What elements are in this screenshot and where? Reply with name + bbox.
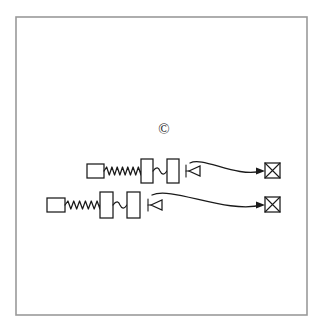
outer-border [16, 17, 307, 315]
tall-rectangle-1 [141, 159, 153, 183]
source-square [87, 164, 104, 178]
tall-rectangle-1 [100, 192, 113, 218]
tall-rectangle-2 [167, 159, 179, 183]
schematic-diagram: © [0, 0, 324, 334]
source-square [47, 198, 65, 212]
tall-rectangle-2 [127, 192, 140, 218]
diagram-canvas: © [0, 0, 324, 334]
copyright-symbol: © [158, 121, 169, 137]
